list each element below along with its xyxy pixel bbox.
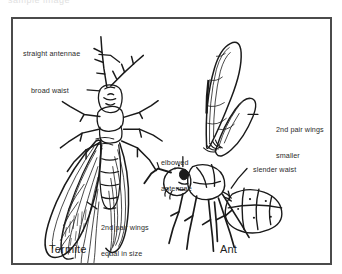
caption-ant: Ant bbox=[220, 243, 237, 255]
leader-slender-waist bbox=[231, 169, 247, 189]
label-line-2: antennae bbox=[161, 185, 192, 194]
label-line-2: equal in size bbox=[101, 250, 149, 259]
termite-legs bbox=[60, 101, 162, 172]
caption-termite: Termite bbox=[49, 243, 86, 255]
diagram-frame: straight antennae broad waist 2nd pair w… bbox=[11, 17, 332, 265]
cut-off-header-text: sample image bbox=[8, 0, 98, 6]
label-termite-second-pair-wings: 2nd pair wings equal in size bbox=[101, 207, 149, 274]
label-slender-waist: slender waist bbox=[253, 166, 296, 175]
label-line-2: smaller bbox=[276, 152, 324, 161]
page-canvas: sample image bbox=[0, 0, 342, 274]
label-line-1: 2nd pair wings bbox=[101, 224, 149, 233]
label-broad-waist: broad waist bbox=[31, 87, 69, 96]
label-straight-antennae: straight antennae bbox=[23, 50, 80, 59]
ant-thorax bbox=[188, 165, 225, 200]
ant-hindwing-venation bbox=[218, 99, 250, 145]
label-elbowed-antennae: elbowed antennae bbox=[161, 142, 192, 211]
label-line-1: elbowed bbox=[161, 159, 192, 168]
label-line-1: 2nd pair wings bbox=[276, 126, 324, 135]
ant-gaster bbox=[225, 188, 282, 233]
leader-broad-waist bbox=[87, 90, 100, 91]
